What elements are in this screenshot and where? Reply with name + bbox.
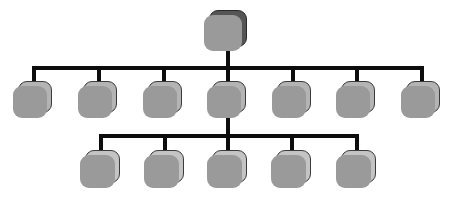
caption-layer [0,0,452,206]
tree-diagram-canvas: 1 3 4 5 2 [0,0,452,206]
